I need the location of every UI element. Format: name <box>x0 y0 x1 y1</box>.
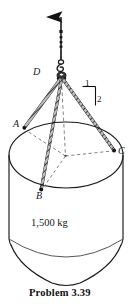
label-point-d: D <box>33 67 40 77</box>
figure-svg <box>0 0 135 304</box>
label-slope-run: 1 <box>85 79 90 88</box>
label-point-c: C <box>118 146 125 156</box>
label-point-a: A <box>13 119 19 129</box>
slope-triangle <box>83 87 96 106</box>
cylinder-container <box>9 122 123 286</box>
lifting-hook <box>57 50 66 81</box>
label-mass: 1,500 kg <box>31 218 68 229</box>
problem-figure: D A B C 1 2 1,500 kg Problem 3.39 <box>0 0 135 304</box>
figure-caption: Problem 3.39 <box>29 288 91 299</box>
label-slope-rise: 2 <box>97 95 102 104</box>
label-point-b: B <box>36 191 42 201</box>
lifting-force-arrow <box>59 17 62 50</box>
